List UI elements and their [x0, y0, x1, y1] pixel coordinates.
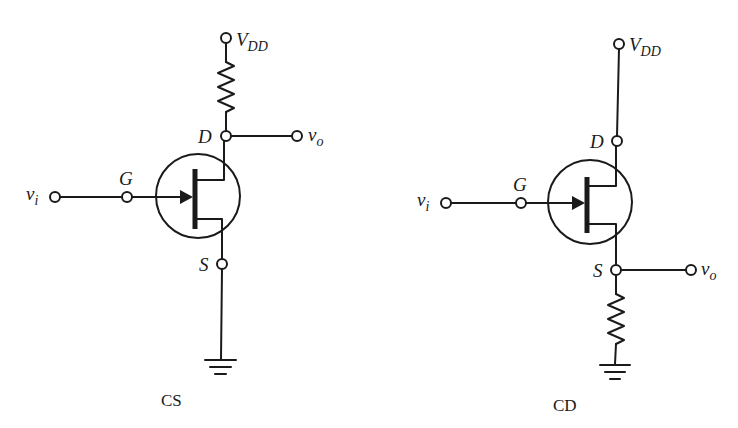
- cs-ground-wire: [221, 269, 222, 359]
- cs-output-label: vo: [308, 124, 323, 149]
- circuit-diagram: VDD D vo G vi S CS: [0, 0, 738, 428]
- cd-resistor-icon: [608, 294, 624, 344]
- cs-jfet-icon: [132, 141, 240, 259]
- cd-input-label: vi: [417, 189, 429, 214]
- cd-source-terminal-icon: [611, 265, 621, 275]
- cs-resistor-icon: [218, 62, 234, 112]
- cd-vdd-terminal-icon: [614, 39, 624, 49]
- cd-gate-terminal-icon: [516, 198, 526, 208]
- cs-gate-label: G: [119, 168, 133, 189]
- cs-circuit: VDD D vo G vi S CS: [26, 29, 323, 410]
- cd-jfet-icon: [526, 146, 632, 264]
- cs-input-label: vi: [26, 183, 38, 208]
- cd-output-label: vo: [701, 258, 716, 283]
- cs-source-label: S: [199, 254, 209, 275]
- cd-vdd-label: VDD: [629, 34, 661, 59]
- cd-ground-wire: [615, 344, 616, 364]
- cd-caption: CD: [553, 396, 577, 415]
- cd-ground-icon: [600, 365, 630, 379]
- cs-vdd-label: VDD: [236, 29, 268, 54]
- cd-drain-terminal-icon: [612, 136, 622, 146]
- cd-output-terminal-icon: [686, 265, 696, 275]
- cs-source-terminal-icon: [217, 259, 227, 269]
- cd-drain-label: D: [589, 131, 604, 152]
- cs-caption: CS: [161, 391, 182, 410]
- cs-vdd-terminal-icon: [221, 33, 231, 43]
- cs-input-terminal-icon: [50, 192, 60, 202]
- cs-gate-terminal-icon: [122, 192, 132, 202]
- cs-drain-terminal-icon: [221, 131, 231, 141]
- cs-drain-label: D: [197, 126, 212, 147]
- cd-vdd-wire: [617, 49, 619, 136]
- cs-ground-icon: [205, 360, 236, 374]
- cd-input-terminal-icon: [441, 198, 451, 208]
- cd-source-label: S: [593, 260, 603, 281]
- cd-gate-label: G: [513, 174, 527, 195]
- cs-output-terminal-icon: [292, 131, 302, 141]
- cd-circuit: VDD D G vi S vo: [417, 34, 716, 415]
